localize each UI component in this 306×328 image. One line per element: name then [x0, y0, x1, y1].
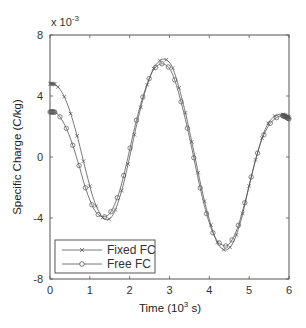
- x-tick-label: 1: [87, 284, 93, 296]
- y-axis-label: Specific Charge (C/kg): [11, 99, 23, 215]
- x-tick-label: 2: [127, 284, 133, 296]
- series-line: [50, 64, 289, 246]
- circle-marker-icon: [80, 262, 85, 267]
- x-tick-label: 4: [206, 284, 212, 296]
- specific-charge-chart: 0123456-8-4048 x 10-3 Specific Charge (C…: [0, 0, 306, 328]
- y-tick-label: 8: [37, 29, 43, 41]
- x-tick-label: 3: [166, 284, 172, 296]
- x-axis-label: Time (103 s): [139, 300, 201, 314]
- y-tick-label: 0: [37, 151, 43, 163]
- y-tick-label: -8: [33, 273, 43, 285]
- series-layer: [48, 58, 291, 252]
- x-tick-label: 0: [47, 284, 53, 296]
- y-multiplier: x 10-3: [51, 14, 79, 28]
- x-tick-label: 6: [286, 284, 292, 296]
- series-free-fc: [48, 62, 291, 249]
- series-fixed-fc: [48, 58, 291, 252]
- y-tick-label: -4: [33, 212, 43, 224]
- legend-label-fixed: Fixed FC: [107, 243, 156, 257]
- y-tick-label: 4: [37, 90, 43, 102]
- series-line: [50, 59, 289, 250]
- legend: Fixed FC Free FC: [55, 240, 156, 273]
- legend-label-free: Free FC: [107, 257, 151, 271]
- x-tick-label: 5: [246, 284, 252, 296]
